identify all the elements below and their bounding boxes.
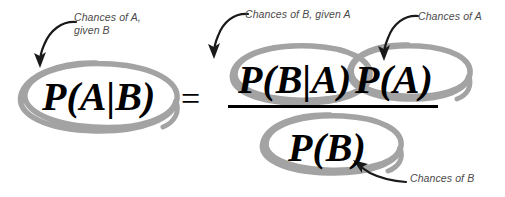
- fraction-bar: [228, 105, 438, 108]
- annotation-chances-of-a-given-b: Chances of A, given B: [74, 11, 141, 37]
- formula-equals-sign: =: [181, 80, 200, 118]
- formula-denominator: P(B): [288, 124, 366, 171]
- formula-numerator-first: P(B|A): [238, 56, 351, 103]
- formula-numerator-second: P(A): [355, 56, 433, 103]
- arrow-chances-of-a-given-b: [34, 22, 76, 68]
- arrow-chances-of-a: [378, 16, 418, 61]
- formula-left-side: P(A|B): [42, 73, 155, 120]
- annotation-chances-of-a: Chances of A: [418, 10, 482, 23]
- annotation-chances-of-b: Chances of B: [410, 172, 474, 185]
- bayes-theorem-diagram: P(A|B) = P(B|A) P(A) P(B) Chances of A, …: [0, 0, 505, 197]
- annotation-chances-of-b-given-a: Chances of B, given A: [245, 8, 351, 21]
- arrow-chances-of-b-given-a: [208, 14, 248, 59]
